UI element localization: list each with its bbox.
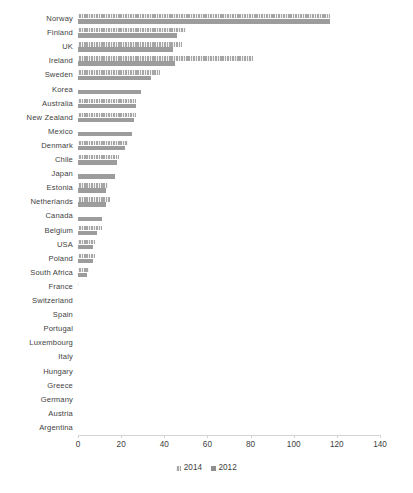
chart-category-row: Luxembourg (78, 336, 380, 350)
category-bars (78, 294, 380, 308)
bar-2014 (78, 282, 79, 286)
x-axis-tick (164, 435, 165, 438)
category-bars (78, 407, 380, 421)
x-axis-tick (294, 435, 295, 438)
category-label: Netherlands (30, 199, 73, 207)
category-bars (78, 40, 380, 54)
category-bars (78, 167, 380, 181)
category-label: Korea (52, 86, 73, 94)
bar-2014 (78, 240, 95, 244)
chart-category-row: Denmark (78, 139, 380, 153)
bar-2014 (78, 56, 253, 60)
bar-2012 (78, 19, 330, 23)
category-bars (78, 238, 380, 252)
bar-2012 (78, 61, 175, 65)
bar-2012 (78, 273, 87, 277)
bar-2012 (78, 90, 141, 94)
chart-category-row: Switzerland (78, 294, 380, 308)
x-axis-tick-label: 140 (373, 440, 387, 449)
category-bars (78, 379, 380, 393)
bar-2012 (78, 104, 136, 108)
category-bars (78, 139, 380, 153)
category-label: Germany (41, 396, 73, 404)
chart-legend: 20142012 (0, 464, 413, 472)
bar-2012 (78, 188, 106, 192)
bar-2012 (78, 33, 177, 37)
bar-2014 (78, 183, 108, 187)
category-label: Chile (55, 156, 73, 164)
category-bars (78, 26, 380, 40)
category-label: Finland (47, 29, 73, 37)
category-label: USA (57, 241, 73, 249)
category-label: Japan (52, 170, 73, 178)
bar-2012 (78, 202, 106, 206)
x-axis-tick-label: 20 (117, 440, 126, 449)
category-label: Canada (45, 213, 73, 221)
x-axis-tick-label: 120 (330, 440, 344, 449)
legend-swatch-icon (176, 466, 181, 471)
x-axis-tick-label: 0 (76, 440, 81, 449)
x-axis-tick-label: 60 (203, 440, 212, 449)
chart-category-row: Sweden (78, 68, 380, 82)
category-bars (78, 153, 380, 167)
chart-category-row: Norway (78, 12, 380, 26)
category-label: Hungary (43, 368, 73, 376)
chart-category-row: UK (78, 40, 380, 54)
chart-category-row: Ireland (78, 54, 380, 68)
category-bars (78, 12, 380, 26)
category-label: Austria (48, 410, 73, 418)
chart-category-row: Spain (78, 308, 380, 322)
plot-area: NorwayFinlandUKIrelandSwedenKoreaAustral… (78, 12, 380, 435)
bar-2014 (78, 42, 182, 46)
legend-item[interactable]: 2012 (211, 464, 237, 472)
category-label: UK (62, 43, 73, 51)
chart-category-row: Belgium (78, 224, 380, 238)
category-bars (78, 308, 380, 322)
category-label: Portugal (44, 325, 74, 333)
category-label: Estonia (47, 184, 73, 192)
chart-category-row: Netherlands (78, 195, 380, 209)
category-label: South Africa (30, 269, 73, 277)
category-bars (78, 68, 380, 82)
bar-2012 (78, 47, 173, 51)
chart-category-row: Italy (78, 350, 380, 364)
chart-category-row: Mexico (78, 125, 380, 139)
x-axis-tick (121, 435, 122, 438)
bar-2012 (78, 118, 134, 122)
bar-2012 (78, 231, 97, 235)
bar-2014 (78, 226, 102, 230)
bar-2014 (78, 268, 89, 272)
bar-2014 (78, 141, 128, 145)
x-axis-tick (337, 435, 338, 438)
x-axis-tick (380, 435, 381, 438)
category-bars (78, 224, 380, 238)
legend-label: 2014 (184, 464, 202, 472)
category-bars (78, 97, 380, 111)
category-label: Poland (48, 255, 73, 263)
bar-chart: NorwayFinlandUKIrelandSwedenKoreaAustral… (0, 0, 413, 493)
category-label: Switzerland (32, 297, 73, 305)
chart-category-row: Greece (78, 379, 380, 393)
category-bars (78, 393, 380, 407)
category-bars (78, 83, 380, 97)
chart-category-row: Germany (78, 393, 380, 407)
category-bars (78, 421, 380, 435)
category-bars (78, 125, 380, 139)
bar-2014 (78, 197, 110, 201)
chart-category-row: Chile (78, 153, 380, 167)
legend-item[interactable]: 2014 (176, 464, 202, 472)
chart-category-row: Finland (78, 26, 380, 40)
bar-2012 (78, 174, 115, 178)
bar-2014 (78, 155, 119, 159)
category-label: Belgium (45, 227, 74, 235)
category-label: Argentina (39, 424, 73, 432)
category-bars (78, 195, 380, 209)
chart-category-row: South Africa (78, 266, 380, 280)
category-label: Mexico (48, 128, 73, 136)
x-axis-tick (78, 435, 79, 438)
category-bars (78, 280, 380, 294)
category-bars (78, 266, 380, 280)
category-label: France (48, 283, 73, 291)
chart-category-row: Korea (78, 83, 380, 97)
category-bars (78, 350, 380, 364)
